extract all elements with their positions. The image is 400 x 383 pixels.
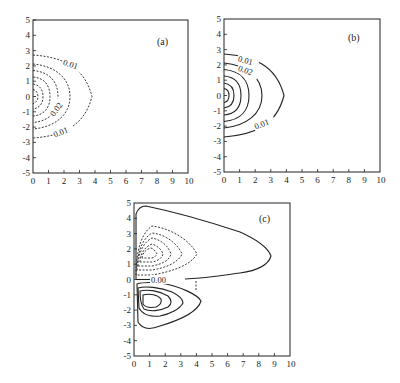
svg-text:0.00: 0.00 [151, 275, 166, 285]
svg-text:2: 2 [62, 176, 67, 186]
svg-text:9: 9 [362, 175, 367, 185]
panel-c: 5 4 3 2 1 0 -1 -2 -3 -4 -5 0 1 2 3 4 5 6… [124, 198, 297, 369]
svg-text:3: 3 [26, 46, 31, 56]
svg-text:1: 1 [26, 76, 31, 86]
contour-labels-b: 0.01 0.02 0.01 [236, 53, 276, 131]
svg-text:3: 3 [269, 175, 274, 185]
svg-text:-3: -3 [23, 137, 31, 147]
svg-text:-2: -2 [124, 305, 132, 315]
panel-b: 5 4 3 2 1 0 -1 -2 -3 -4 -5 0 1 2 3 4 5 6… [214, 14, 387, 185]
svg-text:-3: -3 [214, 136, 222, 146]
svg-text:5: 5 [127, 198, 132, 208]
y-tick-labels-c: 5 4 3 2 1 0 -1 -2 -3 -4 -5 [124, 198, 132, 361]
svg-text:8: 8 [257, 359, 262, 369]
svg-text:2: 2 [253, 175, 258, 185]
svg-text:1: 1 [147, 359, 152, 369]
panel-label-c: (c) [259, 213, 270, 225]
svg-text:4: 4 [127, 213, 132, 223]
svg-text:-2: -2 [214, 121, 222, 131]
svg-text:2: 2 [163, 359, 168, 369]
svg-text:0: 0 [26, 92, 31, 102]
panel-a: 5 4 3 2 1 0 -1 -2 -3 -4 -5 0 1 2 3 4 5 6… [23, 15, 195, 186]
svg-text:5: 5 [108, 176, 113, 186]
svg-text:6: 6 [225, 359, 230, 369]
svg-text:7: 7 [331, 175, 336, 185]
svg-text:-2: -2 [23, 122, 31, 132]
svg-text:5: 5 [217, 14, 222, 24]
svg-text:-5: -5 [124, 351, 132, 361]
svg-text:1: 1 [46, 176, 51, 186]
svg-text:-1: -1 [23, 107, 31, 117]
svg-text:-1: -1 [124, 290, 132, 300]
svg-text:7: 7 [139, 176, 144, 186]
svg-text:4: 4 [284, 175, 289, 185]
svg-text:-4: -4 [124, 336, 132, 346]
svg-text:-4: -4 [23, 153, 31, 163]
svg-text:-4: -4 [214, 152, 222, 162]
svg-text:3: 3 [179, 359, 184, 369]
svg-text:-5: -5 [214, 167, 222, 177]
svg-text:8: 8 [347, 175, 352, 185]
svg-text:3: 3 [127, 229, 132, 239]
svg-text:1: 1 [237, 175, 242, 185]
svg-text:4: 4 [93, 176, 98, 186]
svg-text:10: 10 [377, 175, 387, 185]
svg-text:0: 0 [127, 275, 132, 285]
svg-text:10: 10 [185, 176, 195, 186]
svg-text:0: 0 [217, 91, 222, 101]
svg-text:4: 4 [194, 359, 199, 369]
svg-text:9: 9 [170, 176, 175, 186]
svg-text:-3: -3 [124, 320, 132, 330]
svg-text:5: 5 [26, 15, 31, 25]
svg-text:7: 7 [241, 359, 246, 369]
svg-text:2: 2 [26, 61, 31, 71]
panel-label-b: (b) [348, 32, 360, 44]
svg-text:-1: -1 [214, 106, 222, 116]
svg-text:0: 0 [132, 359, 137, 369]
svg-text:-5: -5 [23, 168, 31, 178]
x-tick-labels-b: 0 1 2 3 4 5 6 7 8 9 10 [222, 175, 386, 185]
svg-text:6: 6 [124, 176, 129, 186]
svg-text:2: 2 [217, 60, 222, 70]
svg-text:2: 2 [127, 244, 132, 254]
svg-text:9: 9 [272, 359, 277, 369]
svg-text:0: 0 [31, 176, 36, 186]
svg-text:0.01: 0.01 [62, 57, 79, 71]
svg-text:1: 1 [217, 75, 222, 85]
svg-text:1: 1 [127, 259, 132, 269]
svg-text:0: 0 [222, 175, 227, 185]
ticks-a [33, 20, 173, 173]
contour-labels-a: 0.01 0.02 0.01 [47, 57, 85, 140]
x-tick-labels-c: 0 1 2 3 4 5 6 7 8 9 10 [132, 359, 296, 369]
svg-text:4: 4 [26, 30, 31, 40]
x-tick-labels-a: 0 1 2 3 4 5 6 7 8 9 10 [31, 176, 194, 186]
svg-text:3: 3 [217, 45, 222, 55]
panel-label-a: (a) [157, 36, 168, 48]
svg-text:3: 3 [77, 176, 82, 186]
figure: 5 4 3 2 1 0 -1 -2 -3 -4 -5 0 1 2 3 4 5 6… [0, 0, 400, 383]
contours-c [136, 206, 271, 328]
contour-labels-c: 0.00 [150, 275, 182, 285]
svg-text:10: 10 [287, 359, 297, 369]
svg-text:6: 6 [315, 175, 320, 185]
svg-text:4: 4 [217, 29, 222, 39]
svg-text:5: 5 [210, 359, 215, 369]
svg-text:8: 8 [155, 176, 160, 186]
y-tick-labels-b: 5 4 3 2 1 0 -1 -2 -3 -4 -5 [214, 14, 222, 177]
y-tick-labels-a: 5 4 3 2 1 0 -1 -2 -3 -4 -5 [23, 15, 31, 178]
svg-text:5: 5 [300, 175, 305, 185]
